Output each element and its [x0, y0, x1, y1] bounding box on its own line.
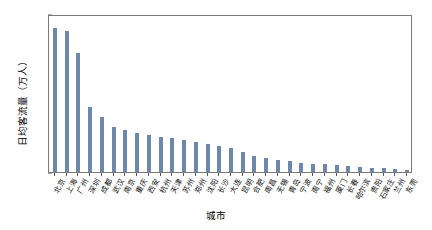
bar [170, 138, 174, 172]
bars-layer [49, 16, 411, 172]
bar [65, 31, 69, 172]
bar [100, 117, 104, 172]
x-axis-tick-mark [77, 173, 78, 176]
x-axis-tick-mark [383, 173, 384, 176]
bar [135, 133, 139, 173]
x-axis-tick-mark [265, 173, 266, 176]
bar [206, 144, 210, 172]
x-axis-tick-mark [277, 173, 278, 176]
bar [76, 53, 80, 172]
x-axis-tick-mark [160, 173, 161, 176]
bar [147, 135, 151, 172]
bar [252, 156, 256, 172]
plot-area [48, 15, 412, 173]
bar [276, 160, 280, 172]
bar [335, 165, 339, 172]
x-axis-tick-mark [66, 173, 67, 176]
bar [264, 158, 268, 172]
x-axis-tick-mark [101, 173, 102, 176]
x-axis-tick-mark [289, 173, 290, 176]
x-axis-tick-mark [336, 173, 337, 176]
bar [182, 140, 186, 172]
x-axis-tick-mark [371, 173, 372, 176]
bar [370, 168, 374, 172]
x-axis-tick-mark [253, 173, 254, 176]
bar [217, 146, 221, 172]
x-axis-tick-mark [136, 173, 137, 176]
x-axis-tick-mark [359, 173, 360, 176]
x-axis-tick-mark [54, 173, 55, 176]
x-axis-tick-mark [312, 173, 313, 176]
bar [382, 168, 386, 172]
x-axis-tick-mark [124, 173, 125, 176]
bar [288, 161, 292, 172]
bar [159, 137, 163, 172]
bar [112, 127, 116, 172]
x-axis-tick-mark [183, 173, 184, 176]
bar [194, 142, 198, 172]
bar [393, 169, 397, 172]
x-axis-tick-mark [394, 173, 395, 176]
x-axis-tick-mark [148, 173, 149, 176]
bar [405, 170, 409, 172]
bar [241, 152, 245, 172]
y-axis-title: 日均客流量（万人） [15, 41, 29, 161]
x-axis-tick-mark [113, 173, 114, 176]
bar [346, 166, 350, 172]
x-axis-tick-mark [230, 173, 231, 176]
x-axis-tick-mark [347, 173, 348, 176]
x-axis-tick-mark [406, 173, 407, 176]
x-axis-tick-mark [195, 173, 196, 176]
bar [311, 164, 315, 172]
bar [53, 28, 57, 172]
bar [299, 163, 303, 172]
x-axis-title: 城市 [0, 208, 432, 222]
x-axis-tick-mark [300, 173, 301, 176]
x-axis-tick-mark [207, 173, 208, 176]
x-axis-tick-mark [171, 173, 172, 176]
x-axis-tick-mark [218, 173, 219, 176]
bar [358, 167, 362, 172]
x-axis-tick-mark [89, 173, 90, 176]
bar-chart: 日均客流量（万人） 020040060080010001200 北京上海广州深圳… [0, 0, 432, 230]
bar [123, 130, 127, 172]
bar [88, 107, 92, 172]
x-axis-tick-mark [242, 173, 243, 176]
bar [323, 164, 327, 172]
x-axis-tick-mark [324, 173, 325, 176]
bar [229, 148, 233, 172]
